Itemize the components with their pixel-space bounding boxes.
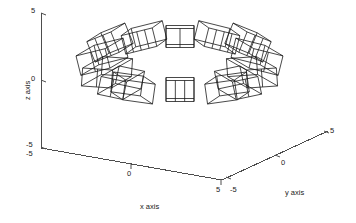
- x-axis-title: x axis: [140, 203, 159, 211]
- x-tick-label-0: 0: [127, 170, 131, 178]
- z-tick-5: [41, 13, 46, 15]
- box-division-line: [103, 35, 111, 55]
- x-tick-label-neg5: -5: [26, 150, 33, 158]
- box-division-line: [95, 38, 103, 58]
- wireframe-box: [111, 72, 156, 104]
- plot-figure: 5 0 -5 -5 0 5 -5 0 5 z axis x axis y axi…: [0, 0, 356, 223]
- box-depth-edge: [236, 38, 254, 49]
- box-division-line: [220, 32, 225, 50]
- box-division-line: [144, 30, 149, 48]
- y-tick-label-neg5: -5: [230, 186, 237, 194]
- y-tick-0: [275, 155, 280, 157]
- y-tick-label-5: 5: [330, 127, 334, 135]
- wireframe-box: [226, 57, 277, 88]
- box-depth-edge: [81, 65, 99, 76]
- box-depth-edge: [258, 75, 278, 86]
- box-depth-edge: [81, 75, 101, 86]
- wireframe-box: [166, 78, 194, 102]
- wireframe-box: [121, 21, 167, 54]
- box-depth-edge: [260, 65, 278, 76]
- box-depth-edge: [256, 57, 276, 68]
- wireframe-box: [87, 23, 133, 62]
- box-back-face: [225, 23, 257, 53]
- wireframe-box: [205, 72, 250, 104]
- box-division-line: [212, 30, 217, 48]
- box-division-line: [255, 38, 263, 58]
- wireframe-box: [225, 23, 271, 62]
- x-tick-label-5: 5: [216, 186, 220, 194]
- box-division-line: [137, 32, 142, 50]
- y-tick-label-0: 0: [281, 159, 285, 167]
- z-axis-title: z axis: [24, 81, 32, 100]
- wireframe-box: [166, 26, 194, 48]
- z-tick-0: [41, 80, 46, 82]
- box-front-face: [123, 80, 156, 104]
- z-tick-label-5: 5: [31, 7, 35, 15]
- y-axis-title: y axis: [285, 189, 304, 197]
- box-depth-edge: [83, 57, 103, 68]
- z-tick-label-neg5: -5: [26, 141, 33, 149]
- wireframe-boxes-group: [76, 21, 283, 104]
